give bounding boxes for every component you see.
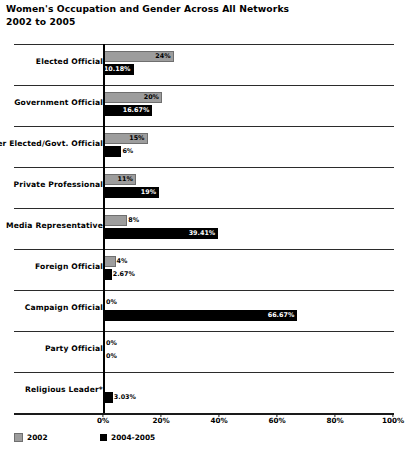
bar-2002: 24%: [104, 51, 174, 62]
bar-value-label: 0%: [104, 299, 117, 305]
chart-container: Women's Occupation and Gender Across All…: [0, 0, 408, 451]
x-tick-label: 0%: [97, 416, 109, 425]
bar-value-label: 16.67%: [123, 107, 152, 113]
legend-label: 2004-2005: [111, 433, 155, 442]
bar-group: 4%2.67%: [104, 249, 394, 290]
chart-row: Religious Leader*3.03%: [14, 372, 394, 413]
bar-value-label: 15%: [129, 135, 146, 141]
x-axis-line: [14, 413, 394, 415]
legend-swatch-icon: [100, 434, 107, 441]
legend-swatch-icon: [14, 433, 23, 442]
chart-row: Campaign Official0%66.67%: [14, 290, 394, 331]
plot-area: Elected Official24%10.18%Government Offi…: [14, 44, 394, 412]
bar-2002: 11%: [104, 174, 136, 185]
category-label: Religious Leader*: [0, 385, 103, 394]
bar-group: 11%19%: [104, 167, 394, 208]
bar-group: 15%6%: [104, 126, 394, 167]
chart-row: Former Elected/Govt. Official15%6%: [14, 126, 394, 167]
bar-group: 0%66.67%: [104, 290, 394, 331]
x-tick-label: 80%: [326, 416, 343, 425]
category-label: Foreign Official: [0, 262, 103, 271]
category-label: Government Official: [0, 98, 103, 107]
bar-2004-2005: 2.67%: [104, 269, 112, 280]
bar-value-label: 0%: [104, 340, 117, 346]
chart-subtitle: 2002 to 2005: [6, 15, 289, 28]
category-label: Elected Official: [0, 57, 103, 66]
bar-2004-2005: 16.67%: [104, 105, 152, 116]
bar-group: 8%39.41%: [104, 208, 394, 249]
bar-2004-2005: 3.03%: [104, 392, 113, 403]
bar-2004-2005: 39.41%: [104, 228, 218, 239]
bar-value-label: 10.18%: [104, 66, 133, 72]
bar-2004-2005: 66.67%: [104, 310, 297, 321]
legend-item-2002[interactable]: 2002: [14, 433, 48, 442]
bar-group: 0%0%: [104, 331, 394, 372]
chart-row: Media Representative8%39.41%: [14, 208, 394, 249]
bar-value-label: 24%: [155, 53, 172, 59]
bar-value-label: 66.67%: [268, 312, 297, 318]
legend-item-2004-2005[interactable]: 2004-2005: [100, 433, 155, 442]
bar-value-label: 8%: [126, 217, 139, 223]
bar-value-label: 39.41%: [189, 230, 218, 236]
category-label: Media Representative: [0, 221, 103, 230]
x-tick-label: 40%: [210, 416, 227, 425]
chart-row: Private Professional11%19%: [14, 167, 394, 208]
bar-2002: 20%: [104, 92, 162, 103]
chart-row: Foreign Official4%2.67%: [14, 249, 394, 290]
category-label: Private Professional: [0, 180, 103, 189]
x-tick-label: 60%: [268, 416, 285, 425]
bar-value-label: 2.67%: [111, 271, 135, 277]
page-title: Women's Occupation and Gender Across All…: [6, 2, 289, 15]
x-axis-ticks: 0%20%40%60%80%100%: [14, 416, 394, 430]
bar-group: 20%16.67%: [104, 85, 394, 126]
bar-2004-2005: 6%: [104, 146, 121, 157]
category-label: Campaign Official: [0, 303, 103, 312]
chart-row: Party Official0%0%: [14, 331, 394, 372]
bar-value-label: 6%: [120, 148, 133, 154]
chart-row: Government Official20%16.67%: [14, 85, 394, 126]
bar-value-label: 19%: [141, 189, 158, 195]
x-tick-label: 20%: [152, 416, 169, 425]
bar-group: 24%10.18%: [104, 44, 394, 85]
bar-value-label: 20%: [144, 94, 161, 100]
bar-2004-2005: 19%: [104, 187, 159, 198]
bar-2002: 15%: [104, 133, 148, 144]
x-tick-label: 100%: [382, 416, 404, 425]
bar-2002: 8%: [104, 215, 127, 226]
bar-group: 3.03%: [104, 372, 394, 413]
bar-2004-2005: 10.18%: [104, 64, 134, 75]
chart-row: Elected Official24%10.18%: [14, 44, 394, 85]
bar-value-label: 11%: [118, 176, 135, 182]
category-label: Party Official: [0, 344, 103, 353]
bar-2002: 4%: [104, 256, 116, 267]
zero-axis-line: [103, 44, 105, 414]
legend-label: 2002: [27, 433, 48, 442]
category-label: Former Elected/Govt. Official: [0, 139, 103, 148]
chart-title-block: Women's Occupation and Gender Across All…: [6, 2, 289, 28]
bar-value-label: 4%: [115, 258, 128, 264]
bar-value-label: 3.03%: [112, 394, 136, 400]
bar-value-label: 0%: [104, 353, 117, 359]
